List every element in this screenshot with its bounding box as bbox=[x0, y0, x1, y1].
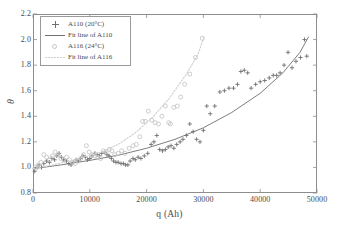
x-tick-label: 10000 bbox=[70, 196, 110, 204]
x-tick-label: 50000 bbox=[297, 196, 337, 204]
solid-line-icon bbox=[44, 30, 66, 41]
legend-label: A110 (20°C) bbox=[66, 21, 104, 28]
chart-figure: 2.2 2.0 1.8 1.6 1.4 1.2 1.0 0.8 θ 0 1000… bbox=[0, 0, 339, 233]
y-tick-label: 1.8 bbox=[5, 61, 31, 69]
x-axis-label: q (Ah) bbox=[0, 209, 339, 219]
x-tick-label: 0 bbox=[13, 196, 53, 204]
chart-legend: A110 (20°C) Fit line of A110 A116 (24°C)… bbox=[40, 16, 131, 66]
x-tick-label: 20000 bbox=[127, 196, 167, 204]
x-tick-label: 40000 bbox=[240, 196, 280, 204]
y-axis-label: θ bbox=[5, 91, 16, 113]
legend-label: A116 (24°C) bbox=[66, 43, 104, 50]
legend-item-a116: A116 (24°C) bbox=[41, 41, 130, 52]
x-tick-label: 30000 bbox=[183, 196, 223, 204]
y-tick-label: 1.4 bbox=[5, 112, 31, 120]
legend-item-a110: A110 (20°C) bbox=[41, 19, 130, 30]
y-tick-label: 1.2 bbox=[5, 138, 31, 146]
y-tick-label: 2.0 bbox=[5, 36, 31, 44]
circle-marker-icon bbox=[44, 41, 66, 52]
legend-item-fit-a116: Fit line of A116 bbox=[41, 52, 130, 63]
legend-label: Fit line of A116 bbox=[66, 54, 112, 61]
y-tick-label: 1.0 bbox=[5, 163, 31, 171]
legend-label: Fit line of A110 bbox=[66, 32, 112, 39]
y-tick-label: 2.2 bbox=[5, 10, 31, 18]
dotted-line-icon bbox=[44, 52, 66, 63]
plus-marker-icon bbox=[44, 19, 66, 30]
legend-item-fit-a110: Fit line of A110 bbox=[41, 30, 130, 41]
